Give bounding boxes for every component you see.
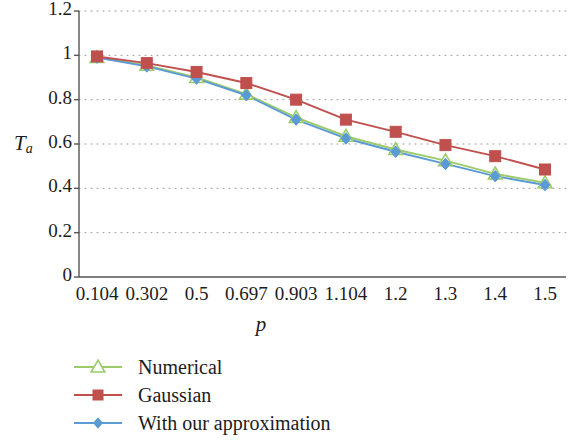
marker-square xyxy=(540,164,551,175)
legend-key-canvas xyxy=(72,385,124,405)
series-line-1 xyxy=(97,56,545,169)
legend-key-canvas xyxy=(72,357,124,377)
y-tick-label: 1.2 xyxy=(12,0,72,20)
chart-canvas xyxy=(0,0,576,300)
x-tick-label: 0.5 xyxy=(185,283,209,305)
legend-marker-triangle-icon xyxy=(72,357,124,377)
legend-marker-diamond-icon xyxy=(72,413,124,433)
marker-square xyxy=(340,114,351,125)
y-axis-title-subscript: a xyxy=(26,141,33,156)
x-tick-label: 0.104 xyxy=(76,283,119,305)
marker-square xyxy=(241,78,252,89)
legend-item: Gaussian xyxy=(72,381,492,409)
chart-legend: NumericalGaussianWith our approximation xyxy=(72,353,492,437)
y-tick-label: 0.8 xyxy=(12,87,72,109)
x-tick-label: 1.2 xyxy=(384,283,408,305)
x-tick-label: 1.3 xyxy=(434,283,458,305)
legend-item-label: Gaussian xyxy=(138,384,211,407)
marker-square xyxy=(490,151,501,162)
legend-item-label: Numerical xyxy=(138,356,222,379)
marker-square xyxy=(92,51,103,62)
x-tick-label: 0.697 xyxy=(225,283,268,305)
y-tick-label: 1 xyxy=(12,42,72,64)
series-line-0 xyxy=(97,58,545,183)
marker-square xyxy=(440,140,451,151)
marker-diamond xyxy=(93,417,103,429)
y-tick-label: 0.2 xyxy=(12,220,72,242)
legend-item: Numerical xyxy=(72,353,492,381)
y-tick-label: 0.4 xyxy=(12,175,72,197)
x-tick-label: 1.4 xyxy=(483,283,507,305)
y-axis-title-base: T xyxy=(14,131,26,155)
marker-square xyxy=(291,94,302,105)
x-tick-label: 0.302 xyxy=(125,283,168,305)
legend-item-label: With our approximation xyxy=(138,412,331,435)
legend-marker-square-icon xyxy=(72,385,124,405)
x-axis-title: p xyxy=(0,312,576,337)
marker-square xyxy=(141,58,152,69)
marker-square xyxy=(191,66,202,77)
legend-item: With our approximation xyxy=(72,409,492,437)
plot-area xyxy=(0,0,576,300)
marker-square xyxy=(390,126,401,137)
x-tick-label: 0.903 xyxy=(275,283,318,305)
y-axis-title: Ta xyxy=(14,131,33,157)
legend-key-canvas xyxy=(72,413,124,433)
chart-figure: 1.210.80.60.40.20 Ta 0.1040.3020.50.6970… xyxy=(0,0,576,445)
x-tick-label: 1.5 xyxy=(533,283,557,305)
x-axis-title-text: p xyxy=(256,312,267,337)
marker-square xyxy=(93,390,104,401)
x-tick-label: 1.104 xyxy=(325,283,368,305)
series-line-2 xyxy=(97,58,545,185)
